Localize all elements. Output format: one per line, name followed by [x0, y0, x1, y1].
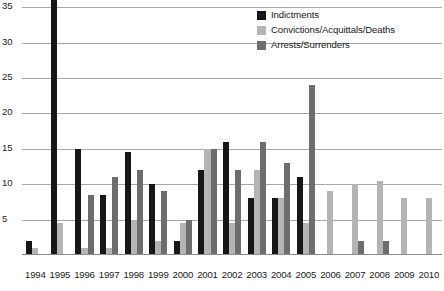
bar-indictments-1996 [75, 149, 81, 255]
bar-arrests-2005 [309, 85, 315, 255]
year-group-2009 [392, 0, 417, 255]
legend-label: Convictions/Acquittals/Deaths [271, 25, 395, 35]
legend-item: Indictments [257, 10, 395, 20]
x-tick-label-2009: 2009 [392, 267, 417, 283]
bar-arrests-2003 [260, 142, 266, 255]
year-group-2001 [195, 0, 220, 255]
bar-convictions-2006 [327, 191, 333, 255]
legend-label: Arrests/Surrenders [271, 40, 350, 50]
legend-item: Arrests/Surrenders [257, 40, 395, 50]
x-tick-label-2000: 2000 [171, 267, 196, 283]
year-group-1994 [23, 0, 48, 255]
x-tick-label-2005: 2005 [294, 267, 319, 283]
bar-arrests-1996 [88, 195, 94, 255]
bar-arrests-2004 [284, 163, 290, 255]
y-tick-label: 10 [2, 178, 12, 188]
x-tick-label-1998: 1998 [121, 267, 146, 283]
y-tick-label: 20 [2, 107, 12, 117]
bar-arrests-2002 [235, 170, 241, 255]
bar-convictions-2010 [426, 198, 432, 255]
x-tick-label-1994: 1994 [23, 267, 48, 283]
y-tick-label: 5 [2, 214, 7, 224]
bar-chart: 3530252015105 19941995199619971998199920… [0, 0, 444, 291]
bar-indictments-1997 [100, 195, 106, 255]
x-tick-label-2003: 2003 [244, 267, 269, 283]
x-tick-label-1999: 1999 [146, 267, 171, 283]
year-group-1995 [48, 0, 73, 255]
year-group-2000 [171, 0, 196, 255]
bar-indictments-1995 [51, 0, 57, 255]
legend-label: Indictments [271, 10, 319, 20]
x-tick-label-1996: 1996 [72, 267, 97, 283]
x-tick-label-2006: 2006 [318, 267, 343, 283]
year-group-1996 [72, 0, 97, 255]
y-tick-label: 35 [2, 1, 12, 11]
x-tick-label-2007: 2007 [343, 267, 368, 283]
bar-convictions-2009 [401, 198, 407, 255]
x-tick-label-1995: 1995 [48, 267, 73, 283]
legend-swatch-icon [257, 26, 266, 35]
legend-item: Convictions/Acquittals/Deaths [257, 25, 395, 35]
bar-arrests-2001 [211, 149, 217, 255]
y-tick-label: 30 [2, 37, 12, 47]
y-tick-label: 25 [2, 72, 12, 82]
year-group-2010 [417, 0, 442, 255]
bar-arrests-2007 [358, 241, 364, 255]
x-tick-label-2010: 2010 [417, 267, 442, 283]
bar-convictions-1995 [57, 223, 63, 255]
year-group-2002 [220, 0, 245, 255]
x-tick-label-2004: 2004 [269, 267, 294, 283]
x-tick-label-2001: 2001 [195, 267, 220, 283]
bar-arrests-2000 [186, 220, 192, 255]
bar-arrests-1999 [161, 191, 167, 255]
year-group-1997 [97, 0, 122, 255]
year-group-1998 [121, 0, 146, 255]
year-group-1999 [146, 0, 171, 255]
x-tick-label-2008: 2008 [367, 267, 392, 283]
x-tick-label-1997: 1997 [97, 267, 122, 283]
legend-swatch-icon [257, 11, 266, 20]
bar-arrests-2008 [383, 241, 389, 255]
x-axis-tick-labels: 1994199519961997199819992000200120022003… [22, 267, 442, 283]
bar-arrests-1997 [112, 177, 118, 255]
x-tick-label-2002: 2002 [220, 267, 245, 283]
bar-arrests-1998 [137, 170, 143, 255]
legend-swatch-icon [257, 41, 266, 50]
x-axis-baseline [22, 254, 442, 255]
legend: IndictmentsConvictions/Acquittals/Deaths… [257, 10, 395, 50]
y-tick-label: 15 [2, 143, 12, 153]
